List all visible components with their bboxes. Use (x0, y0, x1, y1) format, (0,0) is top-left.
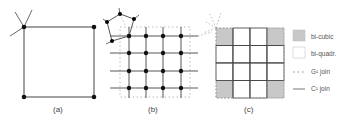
panel-c-biquadratic-patch (267, 46, 284, 64)
panel-a-vertex (22, 95, 27, 100)
legend-swatch-biquadr (293, 47, 305, 58)
panel-a-vertex (22, 25, 27, 30)
panel-c-biquadratic-patch (250, 81, 267, 99)
panel-b-vertex (127, 51, 131, 55)
legend-label-biquadr: bi-quadr. (311, 50, 336, 58)
panel-a-vertex (92, 25, 97, 30)
panel-a-edge (10, 27, 24, 36)
panel-a-patch (24, 27, 94, 97)
panel-c (203, 13, 284, 98)
panel-b-vertex (179, 69, 183, 73)
panel-b-vertex (144, 86, 148, 90)
panel-c-bicubic-patch (267, 81, 284, 99)
panel-c-bicubic-patch (216, 28, 233, 46)
panel-c-biquadratic-patch (250, 46, 267, 64)
panel-b-label: (b) (148, 105, 158, 114)
panel-b-vertex (110, 39, 114, 43)
panel-c-biquadratic-patch (250, 63, 267, 81)
panel-b-vertex (179, 34, 183, 38)
panel-b-vertex (161, 51, 165, 55)
panel-c-biquadratic-patch (216, 63, 233, 81)
panel-b-vertex (179, 86, 183, 90)
diagram: (a) (b) (c) bi-cubic bi-quadr. G¹ join C… (0, 0, 353, 123)
panel-c-bicubic-patch (216, 81, 233, 99)
panel-a-label: (a) (53, 105, 63, 114)
panel-b-vertex (179, 51, 183, 55)
panel-a: (a) (10, 10, 96, 114)
panel-b (103, 8, 212, 98)
legend-label-c1: C¹ join (311, 85, 330, 93)
panel-b-vertex (105, 20, 109, 24)
panel-b-vertex (127, 86, 131, 90)
panel-c-biquadratic-patch (233, 46, 250, 64)
panel-b-vertex (127, 69, 131, 73)
panel-a-edge (24, 10, 32, 27)
legend: bi-cubic bi-quadr. G¹ join C¹ join (293, 30, 336, 93)
legend-label-bicubic: bi-cubic (311, 33, 334, 40)
legend-label-g1: G¹ join (311, 68, 331, 76)
panel-c-dotted-edge (203, 28, 216, 33)
panel-a-edge (15, 12, 24, 27)
panel-b-vertex (127, 34, 131, 38)
panel-b-vertex (144, 34, 148, 38)
panel-b-vertex (118, 12, 122, 16)
panel-b-vertex (161, 69, 165, 73)
panel-c-dotted-edge (206, 22, 216, 28)
legend-swatch-bicubic (293, 30, 305, 41)
panel-c-dotted-edge (216, 13, 221, 28)
panel-b-vertex (161, 34, 165, 38)
panel-c-biquadratic-patch (250, 28, 267, 46)
panel-b-vertex (132, 17, 136, 21)
panel-c-biquadratic-patch (233, 81, 250, 99)
panel-a-vertex (92, 95, 97, 100)
panel-b-vertex (144, 51, 148, 55)
panel-c-bicubic-patch (267, 28, 284, 46)
panel-b-vertex (144, 69, 148, 73)
panel-c-biquadratic-patch (233, 63, 250, 81)
panel-c-biquadratic-patch (267, 63, 284, 81)
panel-c-label: (c) (244, 105, 254, 114)
panel-c-biquadratic-patch (216, 46, 233, 64)
panel-c-biquadratic-patch (233, 28, 250, 46)
panel-b-vertex (161, 86, 165, 90)
